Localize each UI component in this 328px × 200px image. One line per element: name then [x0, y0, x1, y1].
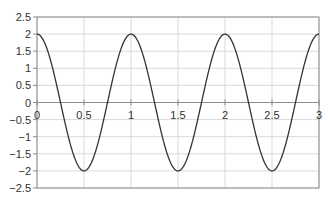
x-tick-label: 1.5 [170, 109, 185, 121]
line-chart: 2.521.510.50−0.5−1−1.5−2−2.5 00.511.522.… [0, 0, 328, 200]
x-tick-label: 2.5 [264, 109, 279, 121]
y-tick-label: 2 [25, 28, 31, 40]
y-tick-label: 1 [25, 62, 31, 74]
y-axis-tick-labels: 2.521.510.50−0.5−1−1.5−2−2.5 [9, 11, 31, 194]
x-tick-label: 0.5 [76, 109, 91, 121]
x-tick-label: 2 [222, 109, 228, 121]
y-tick-label: −2 [18, 165, 31, 177]
x-tick-label: 1 [128, 109, 134, 121]
x-axis-tick-labels: 00.511.522.53 [34, 109, 322, 121]
y-tick-label: 2.5 [16, 11, 31, 23]
y-tick-label: −2.5 [9, 182, 31, 194]
y-tick-label: −0.5 [9, 114, 31, 126]
y-tick-label: −1 [18, 131, 31, 143]
x-tick-label: 3 [316, 109, 322, 121]
y-tick-label: 0 [25, 97, 31, 109]
x-tick-label: 0 [34, 109, 40, 121]
y-tick-label: 1.5 [16, 45, 31, 57]
y-tick-label: 0.5 [16, 79, 31, 91]
y-tick-label: −1.5 [9, 148, 31, 160]
